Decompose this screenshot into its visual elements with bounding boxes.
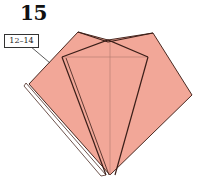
reference-leader-line [30, 46, 50, 63]
origami-diagram [0, 0, 197, 178]
reference-step-label: 12–14 [4, 34, 39, 48]
paper-body [29, 32, 192, 175]
